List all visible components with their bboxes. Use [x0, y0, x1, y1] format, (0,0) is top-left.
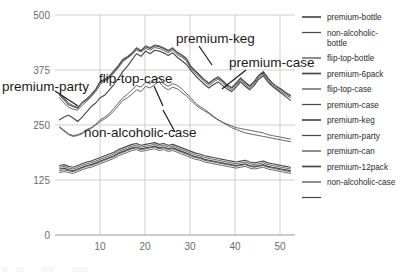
- legend-label: non-alcoholic-: [327, 29, 378, 38]
- x-tick-label: 20: [139, 241, 151, 252]
- legend-label: flip-top-case: [327, 85, 372, 94]
- legend-label-wrap: bottle: [327, 39, 347, 48]
- series-line: [60, 144, 291, 169]
- x-tick-label: 10: [94, 241, 106, 252]
- legend-label: premium-6pack: [327, 70, 384, 79]
- x-axis-tick-labels: 10 20 30 40 50: [94, 241, 286, 252]
- legend-label: premium-keg: [327, 116, 375, 125]
- x-tick-label: 40: [229, 241, 241, 252]
- y-tick-label: 0: [44, 230, 50, 241]
- legend-label: premium-bottle: [327, 13, 382, 22]
- series-line: [60, 149, 291, 174]
- annotation-premium-keg: premium-keg: [176, 31, 255, 46]
- legend-label: premium-party: [327, 132, 381, 141]
- line-chart: 500 375 250 125 0 10 20 30 40 50 premium…: [0, 0, 413, 272]
- annotation-non-alcoholic-case: non-alcoholic-case: [84, 125, 197, 140]
- legend-label: premium-12pack: [327, 163, 389, 172]
- annotation-premium-party: premium-party: [2, 79, 89, 94]
- y-axis-tick-labels: 500 375 250 125 0: [33, 10, 50, 241]
- annotation-flip-top-case: flip-top-case: [99, 71, 173, 86]
- y-tick-label: 500: [33, 10, 50, 21]
- legend-label: flip-top-bottle: [327, 54, 375, 63]
- y-tick-label: 375: [33, 65, 50, 76]
- annotation-premium-case: premium-case: [229, 55, 315, 70]
- legend-label: non-alcoholic-case: [327, 178, 396, 187]
- x-tick-label: 50: [274, 241, 286, 252]
- x-tick-label: 30: [184, 241, 196, 252]
- chart-figure: 500 375 250 125 0 10 20 30 40 50 premium…: [0, 0, 413, 272]
- y-tick-label: 125: [33, 175, 50, 186]
- y-tick-label: 250: [33, 120, 50, 131]
- legend-label: premium-can: [327, 147, 375, 156]
- chart-legend: premium-bottlenon-alcoholic-bottleflip-t…: [302, 13, 396, 198]
- page-edge-artifact: [2, 267, 152, 272]
- legend-label: premium-case: [327, 101, 379, 110]
